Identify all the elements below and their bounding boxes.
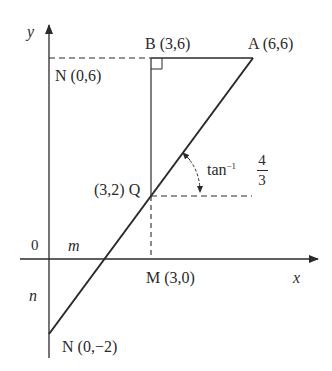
region-m-label: m bbox=[68, 238, 80, 254]
fraction-bar bbox=[257, 170, 268, 171]
angle-exponent: −1 bbox=[227, 161, 237, 171]
point-n-top-label: N (0,6) bbox=[55, 68, 101, 84]
angle-func: tan bbox=[207, 161, 227, 178]
origin-label: 0 bbox=[31, 238, 39, 253]
angle-arc-start-arrow bbox=[183, 153, 190, 160]
right-angle-marker bbox=[151, 58, 162, 69]
point-a-label: A (6,6) bbox=[248, 36, 293, 52]
fraction-denominator: 3 bbox=[256, 173, 268, 188]
point-m-label: M (3,0) bbox=[146, 270, 195, 286]
angle-label: tan−1 bbox=[207, 162, 236, 178]
point-n-bottom-label: N (0,−2) bbox=[62, 339, 117, 355]
diagram-canvas bbox=[0, 0, 332, 371]
point-q-label: (3,2) Q bbox=[94, 182, 140, 198]
coordinate-diagram: y x 0 B (3,6) A (6,6) N (0,6) (3,2) Q M … bbox=[0, 0, 332, 371]
point-b-label: B (3,6) bbox=[145, 36, 190, 52]
region-n-label: n bbox=[29, 288, 37, 304]
fraction-numerator: 4 bbox=[256, 153, 268, 168]
y-axis-label: y bbox=[27, 24, 34, 40]
angle-arc bbox=[183, 153, 200, 192]
x-axis-label: x bbox=[293, 270, 300, 286]
